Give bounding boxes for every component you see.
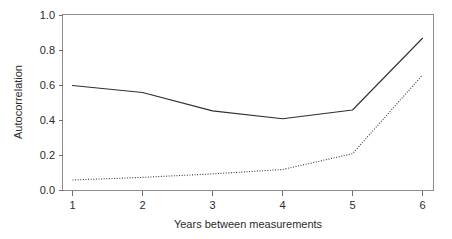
autocorrelation-line-chart: 0.0 0.2 0.4 0.6 0.8 1.0 1 2 3 4 5 6 Year… xyxy=(0,0,452,239)
x-axis-tick-labels: 1 2 3 4 5 6 xyxy=(69,199,425,211)
x-tick-label: 1 xyxy=(69,199,75,211)
y-tick-label: 0.8 xyxy=(40,44,55,56)
y-tick-label: 0.4 xyxy=(40,114,55,126)
x-tick-label: 5 xyxy=(349,199,355,211)
x-tick-label: 4 xyxy=(279,199,285,211)
x-axis-ticks xyxy=(73,191,423,196)
y-tick-label: 0.0 xyxy=(40,184,55,196)
x-tick-label: 3 xyxy=(209,199,215,211)
y-tick-label: 1.0 xyxy=(40,9,55,21)
y-axis-ticks xyxy=(59,16,63,191)
plot-frame xyxy=(63,15,434,191)
y-axis-title: Autocorrelation xyxy=(12,65,24,139)
y-tick-label: 0.2 xyxy=(40,149,55,161)
x-axis-title: Years between measurements xyxy=(174,218,323,230)
x-tick-label: 2 xyxy=(139,199,145,211)
chart-figure: 0.0 0.2 0.4 0.6 0.8 1.0 1 2 3 4 5 6 Year… xyxy=(0,0,452,239)
series-line-solid xyxy=(73,38,423,119)
y-axis-tick-labels: 0.0 0.2 0.4 0.6 0.8 1.0 xyxy=(40,9,55,196)
y-tick-label: 0.6 xyxy=(40,79,55,91)
x-tick-label: 6 xyxy=(419,199,425,211)
